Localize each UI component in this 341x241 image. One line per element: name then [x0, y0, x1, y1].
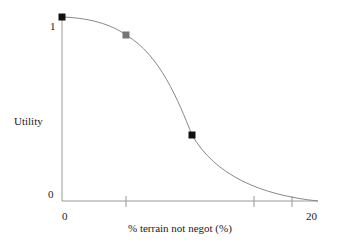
data-point-marker	[189, 132, 196, 139]
data-point-marker	[123, 32, 130, 39]
y-axis-label: Utility	[14, 115, 43, 127]
utility-curve	[62, 17, 318, 201]
y-tick-label-bottom: 0	[48, 188, 54, 200]
x-tick-label-right: 20	[306, 210, 317, 222]
chart-plot	[0, 0, 341, 241]
y-tick-label-top: 1	[50, 20, 56, 32]
x-axis-label: % terrain not negot (%)	[128, 222, 232, 234]
x-tick-label-left: 0	[62, 210, 68, 222]
data-point-marker	[59, 14, 66, 21]
